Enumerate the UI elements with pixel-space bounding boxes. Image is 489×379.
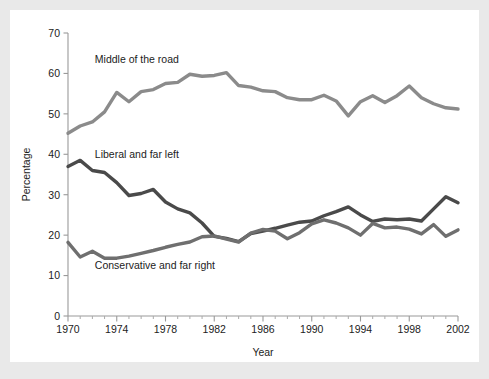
x-tick-label: 2002 xyxy=(446,323,470,335)
x-tick-label: 1974 xyxy=(105,323,129,335)
x-tick-label: 1978 xyxy=(154,323,178,335)
x-tick-label: 1982 xyxy=(203,323,227,335)
x-tick-label: 1994 xyxy=(349,323,373,335)
y-tick-label: 40 xyxy=(48,148,60,160)
axes: 0102030405060701970197419781982198619901… xyxy=(20,27,470,358)
y-tick-label: 0 xyxy=(54,310,60,322)
y-axis-title: Percentage xyxy=(20,147,32,201)
series-line-2 xyxy=(68,220,458,258)
chart-canvas: 0102030405060701970197419781982198619901… xyxy=(10,10,479,362)
x-tick-label: 1998 xyxy=(398,323,422,335)
series-label-2: Conservative and far right xyxy=(95,259,215,271)
line-chart: 0102030405060701970197419781982198619901… xyxy=(10,10,479,362)
x-axis-title: Year xyxy=(252,346,274,358)
y-tick-label: 20 xyxy=(48,229,60,241)
figure-frame: 0102030405060701970197419781982198619901… xyxy=(0,0,489,379)
y-tick-label: 10 xyxy=(48,269,60,281)
series-lines xyxy=(68,73,458,259)
y-tick-label: 70 xyxy=(48,27,60,39)
y-tick-label: 60 xyxy=(48,67,60,79)
x-tick-label: 1990 xyxy=(300,323,324,335)
y-tick-label: 30 xyxy=(48,189,60,201)
y-tick-label: 50 xyxy=(48,108,60,120)
series-line-0 xyxy=(68,73,458,134)
x-tick-label: 1970 xyxy=(56,323,80,335)
x-tick-label: 1986 xyxy=(251,323,275,335)
series-label-0: Middle of the road xyxy=(95,53,179,65)
series-label-1: Liberal and far left xyxy=(95,148,179,160)
